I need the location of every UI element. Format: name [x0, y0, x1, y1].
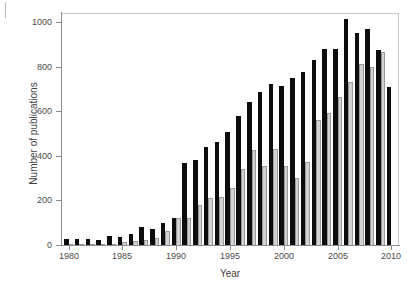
bar-series-container: [61, 13, 399, 245]
bar-group-2002: [301, 13, 310, 245]
bar-group-2006: [344, 13, 353, 245]
y-tick-label-1000: 1000: [0, 18, 52, 27]
bar-group-2008: [365, 13, 374, 245]
bar-1984-series-gray: [112, 244, 117, 245]
bar-2005-series-gray: [338, 97, 343, 245]
x-tick-label-2005: 2005: [318, 252, 358, 261]
bar-group-1980: [64, 13, 73, 245]
x-tick-1990: [176, 245, 177, 250]
bar-2008-series-gray: [370, 67, 375, 245]
publications-bar-chart: 02004006008001000 1980198519901995200020…: [0, 0, 407, 291]
bar-group-1983: [96, 13, 105, 245]
bar-1994-series-gray: [219, 197, 224, 245]
bar-1995-series-gray: [230, 188, 235, 245]
bar-group-2010: [387, 13, 396, 245]
bar-2004-series-gray: [327, 113, 332, 245]
page-corner-mark: [5, 2, 6, 18]
bar-group-2003: [312, 13, 321, 245]
bar-1988-series-gray: [155, 238, 160, 245]
bar-group-1982: [86, 13, 95, 245]
x-tick-2010: [391, 245, 392, 250]
bar-group-1993: [204, 13, 213, 245]
bar-group-1987: [139, 13, 148, 245]
bar-2010-series-black: [387, 87, 392, 245]
x-tick-label-1980: 1980: [49, 252, 89, 261]
bar-1981-series-gray: [79, 244, 84, 245]
bar-group-1986: [129, 13, 138, 245]
bar-group-2000: [279, 13, 288, 245]
x-tick-1980: [69, 245, 70, 250]
bar-group-2005: [333, 13, 342, 245]
bar-group-1994: [215, 13, 224, 245]
bar-group-1997: [247, 13, 256, 245]
bar-group-1985: [118, 13, 127, 245]
bar-2002-series-gray: [305, 162, 310, 245]
x-tick-label-1985: 1985: [102, 252, 142, 261]
bar-group-2007: [355, 13, 364, 245]
y-tick-0: [56, 245, 61, 246]
y-tick-label-600: 600: [0, 107, 52, 116]
x-tick-label-1995: 1995: [210, 252, 250, 261]
y-tick-label-0: 0: [0, 241, 52, 250]
bar-group-1992: [193, 13, 202, 245]
bar-group-2009: [376, 13, 385, 245]
bar-2006-series-gray: [348, 82, 353, 245]
x-tick-2000: [284, 245, 285, 250]
x-tick-1985: [122, 245, 123, 250]
bar-group-1998: [258, 13, 267, 245]
bar-group-1990: [172, 13, 181, 245]
y-axis-title: Number of publications: [28, 39, 39, 229]
bar-group-1988: [150, 13, 159, 245]
x-tick-2005: [338, 245, 339, 250]
bar-group-1996: [236, 13, 245, 245]
bar-group-1991: [182, 13, 191, 245]
bar-group-1999: [269, 13, 278, 245]
bar-1993-series-gray: [208, 198, 213, 245]
bar-2003-series-gray: [316, 120, 321, 245]
bar-1982-series-gray: [90, 244, 95, 245]
bar-1980-series-gray: [69, 244, 74, 245]
x-tick-label-1990: 1990: [156, 252, 196, 261]
bar-2000-series-gray: [284, 166, 289, 245]
y-tick-label-200: 200: [0, 196, 52, 205]
x-tick-label-2010: 2010: [371, 252, 407, 261]
y-tick-label-800: 800: [0, 63, 52, 72]
bar-2007-series-gray: [359, 64, 364, 245]
bar-2009-series-gray: [381, 52, 386, 245]
bar-1996-series-gray: [241, 169, 246, 245]
bar-group-2004: [322, 13, 331, 245]
x-tick-label-2000: 2000: [264, 252, 304, 261]
bar-1989-series-gray: [165, 231, 170, 245]
bar-1998-series-gray: [262, 166, 267, 245]
bar-1985-series-gray: [122, 242, 127, 245]
bar-1999-series-gray: [273, 149, 278, 245]
y-tick-label-400: 400: [0, 152, 52, 161]
bar-1987-series-gray: [144, 240, 149, 245]
bar-group-1984: [107, 13, 116, 245]
bar-1983-series-gray: [101, 244, 106, 245]
bar-group-1995: [225, 13, 234, 245]
bar-1991-series-gray: [187, 218, 192, 245]
bar-1986-series-gray: [133, 241, 138, 245]
bar-group-1989: [161, 13, 170, 245]
x-tick-1995: [230, 245, 231, 250]
bar-2001-series-gray: [295, 178, 300, 245]
bar-group-2001: [290, 13, 299, 245]
x-axis-title: Year: [61, 268, 399, 279]
bar-1990-series-gray: [176, 218, 181, 245]
bar-1992-series-gray: [198, 205, 203, 245]
bar-group-1981: [75, 13, 84, 245]
bar-1997-series-gray: [252, 150, 257, 245]
